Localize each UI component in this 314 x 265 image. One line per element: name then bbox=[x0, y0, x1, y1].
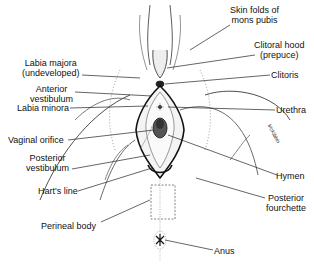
label-line: fourchette bbox=[266, 203, 306, 213]
label-clitoris: Clitoris bbox=[271, 70, 299, 80]
label-line: vestibulum bbox=[26, 163, 69, 173]
label-hymen: Hymen bbox=[276, 171, 305, 181]
label-line: (prepuce) bbox=[254, 50, 305, 60]
label-line: Clitoris bbox=[271, 70, 299, 80]
label-posterior-fourchette: Posterior fourchette bbox=[266, 193, 306, 213]
label-harts-line: Hart's line bbox=[38, 186, 78, 196]
label-posterior-vestibulum: Posterior vestibulum bbox=[26, 153, 69, 173]
label-line: mons pubis bbox=[230, 15, 279, 25]
label-anterior-vestibulum: Anterior vestibulum bbox=[30, 84, 73, 104]
label-labia-minora: Labia minora bbox=[17, 103, 69, 113]
label-vaginal-orifice: Vaginal orifice bbox=[8, 135, 64, 145]
label-line: Hart's line bbox=[38, 186, 78, 196]
label-perineal-body: Perineal body bbox=[41, 221, 96, 231]
label-line: Clitoral hood bbox=[254, 40, 305, 50]
label-anus: Anus bbox=[214, 246, 235, 256]
label-line: Vaginal orifice bbox=[8, 135, 64, 145]
label-line: Urethra bbox=[276, 105, 306, 115]
label-line: Anterior bbox=[30, 84, 73, 94]
label-line: (undeveloped) bbox=[22, 68, 80, 78]
label-line: Anus bbox=[214, 246, 235, 256]
label-line: Perineal body bbox=[41, 221, 96, 231]
label-labia-majora: Labia majora (undeveloped) bbox=[22, 58, 80, 78]
label-urethra: Urethra bbox=[276, 105, 306, 115]
label-line: Skin folds of bbox=[230, 5, 279, 15]
label-line: Labia majora bbox=[22, 58, 80, 68]
label-line: Hymen bbox=[276, 171, 305, 181]
label-skin-folds: Skin folds of mons pubis bbox=[230, 5, 279, 25]
label-line: Posterior bbox=[266, 193, 306, 203]
label-line: Labia minora bbox=[17, 103, 69, 113]
label-line: Posterior bbox=[26, 153, 69, 163]
label-clitoral-hood: Clitoral hood (prepuce) bbox=[254, 40, 305, 60]
